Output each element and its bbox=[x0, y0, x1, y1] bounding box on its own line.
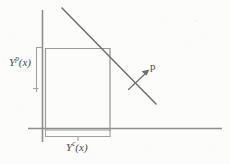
diagram-svg bbox=[0, 0, 230, 164]
x-axis-label-argument: (x) bbox=[75, 141, 87, 153]
price-line bbox=[62, 8, 156, 104]
price-vector-label: p bbox=[150, 61, 156, 72]
bottom-measure-brace bbox=[45, 130, 111, 141]
x-axis-label: Yc(x) bbox=[66, 142, 88, 153]
left-measure-brace bbox=[33, 48, 42, 93]
y-axis-label: Yp(x) bbox=[9, 57, 31, 68]
y-axis-label-argument: (x) bbox=[19, 56, 31, 68]
price-vector-arrow-head bbox=[142, 70, 150, 76]
price-vector-arrow-shaft bbox=[129, 72, 148, 90]
figure-canvas: Yp(x) Yc(x) p bbox=[0, 0, 230, 164]
